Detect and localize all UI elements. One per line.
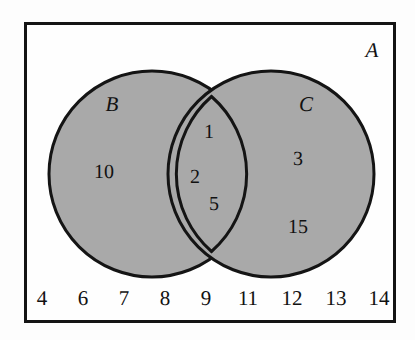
outside-element-0: 4 xyxy=(37,288,48,309)
outside-element-4: 9 xyxy=(201,288,212,309)
outside-element-5: 11 xyxy=(238,288,258,309)
element-intersection-2: 2 xyxy=(190,167,200,187)
outside-element-6: 12 xyxy=(282,288,303,309)
universal-set-label: A xyxy=(366,40,379,61)
outside-element-8: 14 xyxy=(369,288,390,309)
outside-element-7: 13 xyxy=(326,288,347,309)
element-c-only-3: 3 xyxy=(293,149,303,169)
element-intersection-5: 5 xyxy=(209,194,219,214)
set-b-label: B xyxy=(106,94,119,115)
set-c-label: C xyxy=(299,94,313,115)
outside-element-2: 7 xyxy=(119,288,130,309)
element-c-only-15: 15 xyxy=(288,217,308,237)
outside-element-1: 6 xyxy=(78,288,89,309)
venn-diagram-figure: A B C 10 1 2 5 3 15 4 6 7 8 9 11 12 13 1… xyxy=(0,0,415,340)
outside-element-3: 8 xyxy=(160,288,171,309)
element-b-only-10: 10 xyxy=(94,162,114,182)
element-intersection-1: 1 xyxy=(204,122,214,142)
